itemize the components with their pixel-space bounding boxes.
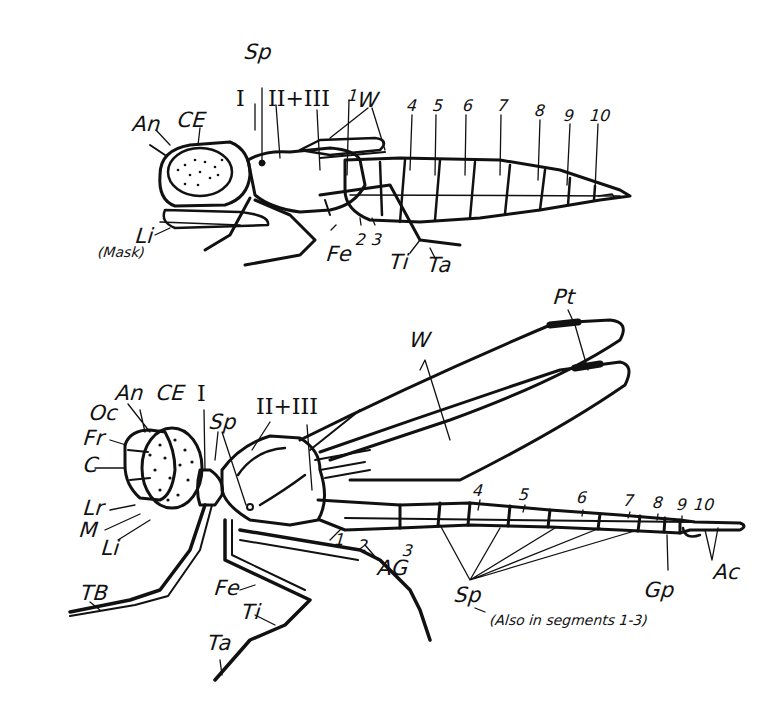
label-segment-8-adult: 8 [652,495,664,511]
label-femur-larva: Fe [326,244,353,265]
label-segment-10-larva: 10 [589,108,611,124]
label-genital-pore: Gp [644,580,676,601]
label-mandible: M [79,520,99,541]
label-femur-adult: Fe [214,578,241,599]
label-compound-eye-adult: CE [156,383,186,404]
label-segment-II-III-adult: II+III [256,396,318,418]
larva-drawing [150,138,630,265]
label-tibia-adult: Ti [241,602,262,623]
label-segment-4-adult: 4 [472,483,484,499]
label-segment-2-larva: 2 [355,232,367,248]
label-spiracle-larva: Sp [244,42,273,63]
label-segment-5-larva: 5 [432,98,444,114]
label-segment-II-III-larva: II+III [268,88,330,110]
label-segment-1-adult: 1 [334,532,346,548]
label-antenna-adult: An [115,383,145,404]
label-tibia-larva: Ti [389,252,410,273]
label-accessory-genitalia: AG [377,558,410,579]
label-wing-adult: W [409,330,432,351]
label-pterostigma: Pt [553,287,576,308]
label-segment-7-adult: 7 [623,493,635,509]
label-segment-10-adult: 10 [693,497,715,513]
label-spiracle-note: (Also in segments 1-3) [489,613,648,627]
anatomy-drawing [0,0,782,725]
label-segment-4-larva: 4 [406,98,418,114]
label-mask-note: (Mask) [97,245,145,259]
label-wing-larva: W [357,90,380,111]
label-compound-eye-larva: CE [177,110,207,131]
label-spiracle-adult-thorax: Sp [209,412,238,433]
label-segment-6-adult: 6 [576,490,588,506]
label-segment-I-adult: I [197,383,206,405]
label-segment-3-larva: 3 [371,232,383,248]
label-segment-I-larva: I [236,88,245,110]
label-tibial-brush: TB [80,583,109,604]
label-tarsus-adult: Ta [207,633,233,654]
dragonfly-anatomy-figure: Sp I II+III An CE W 1 4 5 6 7 8 9 10 Li … [0,0,782,725]
label-segment-5-adult: 5 [518,487,530,503]
label-segment-7-larva: 7 [497,98,509,114]
label-segment-6-larva: 6 [462,98,474,114]
label-labrum: Lr [83,498,106,519]
label-ocelli: Oc [89,403,119,424]
label-clypeus: C [83,455,100,476]
label-segment-1-larva: 1 [347,88,359,104]
label-spiracle-adult-abdomen: Sp [454,585,483,606]
label-anal-appendages: Ac [713,562,741,583]
label-segment-8-larva: 8 [534,103,546,119]
label-antenna-larva: An [132,114,162,135]
label-segment-2-adult: 2 [357,538,369,554]
label-tarsus-larva: Ta [427,255,453,276]
label-segment-9-larva: 9 [563,108,575,124]
label-segment-9-adult: 9 [676,497,688,513]
label-labium-adult: Li [101,538,121,559]
label-frons: Fr [83,428,106,449]
